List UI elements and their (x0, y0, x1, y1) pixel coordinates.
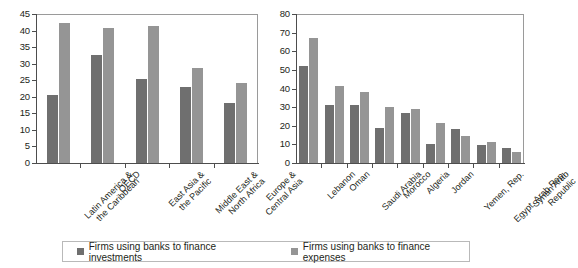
y-tick (32, 47, 36, 48)
x-tick (125, 164, 126, 168)
bar-firms-using-banks-to-finance-expenses-5 (436, 123, 445, 163)
y-tick-label-10: 10 (2, 125, 30, 135)
bar-firms-using-banks-to-finance-expenses-2 (360, 92, 369, 163)
x-tick (448, 164, 449, 168)
bar-firms-using-banks-to-finance-expenses-8 (512, 152, 521, 163)
chart-legend: Firms using banks to finance investments… (62, 241, 470, 262)
y-tick (32, 97, 36, 98)
bar-firms-using-banks-to-finance-investments-4 (401, 113, 410, 163)
bar-firms-using-banks-to-finance-investments-0 (299, 66, 308, 163)
bar-firms-using-banks-to-finance-expenses-2 (148, 26, 159, 163)
y-tick-label-20: 20 (262, 121, 290, 131)
y-tick-label-30: 30 (2, 59, 30, 69)
bar-firms-using-banks-to-finance-investments-2 (350, 105, 359, 163)
y-tick (292, 107, 296, 108)
y-tick-label-10: 10 (262, 139, 290, 149)
legend-item-expenses: Firms using banks to finance expenses (291, 241, 469, 263)
y-tick-label-25: 25 (2, 75, 30, 85)
y-tick (292, 14, 296, 15)
bar-firms-using-banks-to-finance-investments-7 (477, 145, 486, 163)
bar-firms-using-banks-to-finance-investments-2 (136, 79, 147, 163)
bar-firms-using-banks-to-finance-investments-0 (47, 95, 58, 163)
bar-firms-using-banks-to-finance-investments-5 (426, 144, 435, 163)
bar-firms-using-banks-to-finance-expenses-3 (385, 107, 394, 163)
x-tick (214, 164, 215, 168)
legend-swatch-investments-icon (77, 248, 84, 255)
x-axis-label-5: Jordan (449, 169, 476, 196)
bar-firms-using-banks-to-finance-investments-3 (180, 87, 191, 163)
y-tick-label-70: 70 (262, 28, 290, 38)
y-axis-line (296, 14, 297, 164)
y-tick (32, 130, 36, 131)
y-tick-label-20: 20 (2, 92, 30, 102)
x-tick (80, 164, 81, 168)
y-tick-label-0: 0 (262, 158, 290, 168)
x-axis-label-3: Middle East &North Africa (214, 169, 267, 222)
x-tick (423, 164, 424, 168)
y-tick (292, 126, 296, 127)
x-axis-label-6: Yemen, Rep. (482, 169, 526, 213)
legend-label-investments: Firms using banks to finance investments (89, 241, 265, 263)
bar-firms-using-banks-to-finance-investments-4 (224, 103, 235, 163)
bar-firms-using-banks-to-finance-expenses-1 (103, 28, 114, 163)
y-tick-label-5: 5 (2, 141, 30, 151)
y-tick-label-30: 30 (262, 102, 290, 112)
x-tick (321, 164, 322, 168)
bar-firms-using-banks-to-finance-investments-1 (325, 105, 334, 163)
x-tick (372, 164, 373, 168)
legend-label-expenses: Firms using banks to finance expenses (303, 241, 469, 263)
y-tick (32, 113, 36, 114)
bar-firms-using-banks-to-finance-investments-1 (91, 55, 102, 163)
x-tick (347, 164, 348, 168)
y-tick-label-0: 0 (2, 158, 30, 168)
bar-firms-using-banks-to-finance-expenses-4 (236, 83, 247, 163)
x-axis-line (296, 163, 525, 164)
bar-firms-using-banks-to-finance-investments-3 (375, 128, 384, 163)
bar-firms-using-banks-to-finance-expenses-0 (59, 23, 70, 163)
y-tick-label-35: 35 (2, 42, 30, 52)
y-tick-label-40: 40 (2, 26, 30, 36)
y-tick-label-60: 60 (262, 46, 290, 56)
y-tick-label-45: 45 (2, 9, 30, 19)
x-tick (473, 164, 474, 168)
y-tick (292, 70, 296, 71)
bar-firms-using-banks-to-finance-investments-6 (451, 129, 460, 163)
chart-panel-right: 01020304050607080 LebanonOmanSaudi Arabi… (266, 0, 532, 232)
x-axis-line (36, 163, 259, 164)
y-tick (32, 146, 36, 147)
y-tick-label-80: 80 (262, 9, 290, 19)
y-tick (32, 14, 36, 15)
y-tick (292, 33, 296, 34)
bar-firms-using-banks-to-finance-expenses-0 (309, 38, 318, 163)
x-tick (499, 164, 500, 168)
bar-firms-using-banks-to-finance-expenses-1 (335, 86, 344, 163)
x-tick (397, 164, 398, 168)
y-tick (292, 51, 296, 52)
y-tick (292, 89, 296, 90)
bar-firms-using-banks-to-finance-expenses-4 (411, 109, 420, 163)
bar-firms-using-banks-to-finance-expenses-6 (461, 136, 470, 163)
y-tick-label-50: 50 (262, 65, 290, 75)
legend-swatch-expenses-icon (291, 248, 298, 255)
bar-firms-using-banks-to-finance-investments-8 (502, 148, 511, 163)
bar-firms-using-banks-to-finance-expenses-7 (487, 142, 496, 163)
y-tick (292, 144, 296, 145)
y-tick (32, 80, 36, 81)
y-tick (32, 31, 36, 32)
x-axis-label-2: East Asia &the Pacific (166, 169, 213, 216)
chart-panel-left: 051015202530354045 Latin America &the Ca… (0, 0, 266, 232)
legend-item-investments: Firms using banks to finance investments (77, 241, 265, 263)
x-tick (169, 164, 170, 168)
y-tick (32, 64, 36, 65)
y-tick-label-15: 15 (2, 108, 30, 118)
y-tick-label-40: 40 (262, 84, 290, 94)
y-axis-line (36, 14, 37, 164)
bar-firms-using-banks-to-finance-expenses-3 (192, 68, 203, 163)
